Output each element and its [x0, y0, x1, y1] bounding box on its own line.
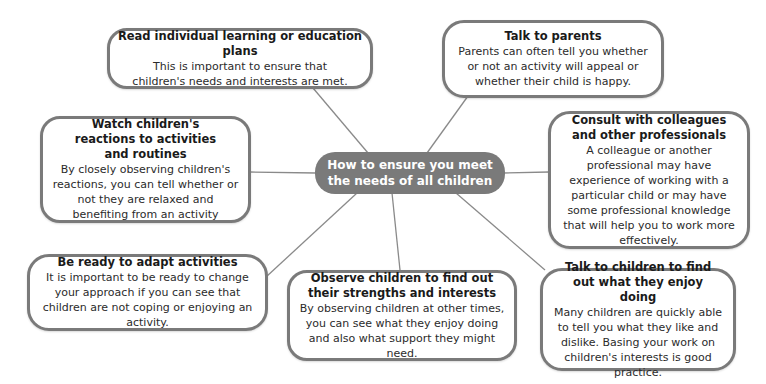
- connector-observe-children: [392, 193, 400, 270]
- node-body: Parents can often tell you whether or no…: [451, 44, 655, 89]
- node-title: Talk to parents: [504, 29, 601, 44]
- connector-talk-children: [456, 193, 545, 270]
- node-body: This is important to ensure that childre…: [116, 59, 364, 89]
- connector-consult-colleagues: [503, 172, 549, 173]
- node-adapt-activities: Be ready to adapt activities It is impor…: [27, 254, 268, 331]
- central-topic-label: How to ensure you meet the needs of all …: [325, 157, 495, 189]
- connector-talk-parents: [427, 96, 468, 153]
- node-consult-colleagues: Consult with colleagues and other profes…: [548, 111, 750, 249]
- node-read-plans: Read individual learning or education pl…: [107, 28, 373, 89]
- node-body: By observing children at other times, yo…: [296, 301, 508, 361]
- node-title: Talk to children to find out what they e…: [549, 260, 727, 305]
- connector-read-plans: [313, 88, 368, 153]
- node-body: Many children are quickly able to tell y…: [549, 305, 727, 380]
- node-title: Consult with colleagues and other profes…: [557, 113, 741, 143]
- connector-watch-reactions: [250, 172, 316, 173]
- node-watch-reactions: Watch children's reactions to activities…: [40, 116, 251, 223]
- node-talk-children: Talk to children to find out what they e…: [540, 268, 736, 371]
- node-title: Observe children to find out their stren…: [296, 271, 508, 301]
- node-talk-parents: Talk to parents Parents can often tell y…: [442, 20, 664, 98]
- node-body: It is important to be ready to change yo…: [36, 270, 259, 330]
- node-observe-children: Observe children to find out their stren…: [287, 270, 517, 361]
- node-body: By closely observing children's reaction…: [49, 162, 242, 222]
- central-topic: How to ensure you meet the needs of all …: [315, 152, 505, 194]
- node-title: Watch children's reactions to activities…: [49, 117, 242, 162]
- connector-adapt-activities: [266, 193, 357, 277]
- node-title: Be ready to adapt activities: [58, 255, 238, 270]
- node-title: Read individual learning or education pl…: [116, 29, 364, 59]
- node-body: A colleague or another professional may …: [557, 143, 741, 248]
